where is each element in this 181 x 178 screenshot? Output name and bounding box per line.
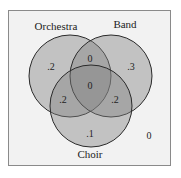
- orchestra-label: Orchestra: [35, 20, 78, 32]
- region-choir-only: .1: [86, 128, 94, 139]
- region-orchestra-band: 0: [88, 53, 93, 64]
- choir-label: Choir: [77, 148, 102, 160]
- region-band-only: .3: [127, 61, 135, 72]
- region-outside: 0: [147, 130, 152, 141]
- region-all-three: 0: [88, 80, 93, 91]
- band-label: Band: [113, 18, 137, 30]
- region-orchestra-only: .2: [47, 61, 55, 72]
- region-orchestra-choir: .2: [59, 94, 67, 105]
- region-band-choir: .2: [111, 94, 119, 105]
- venn-diagram: Orchestra Band Choir .2 .3 .1 0 .2 .2 0 …: [0, 0, 181, 178]
